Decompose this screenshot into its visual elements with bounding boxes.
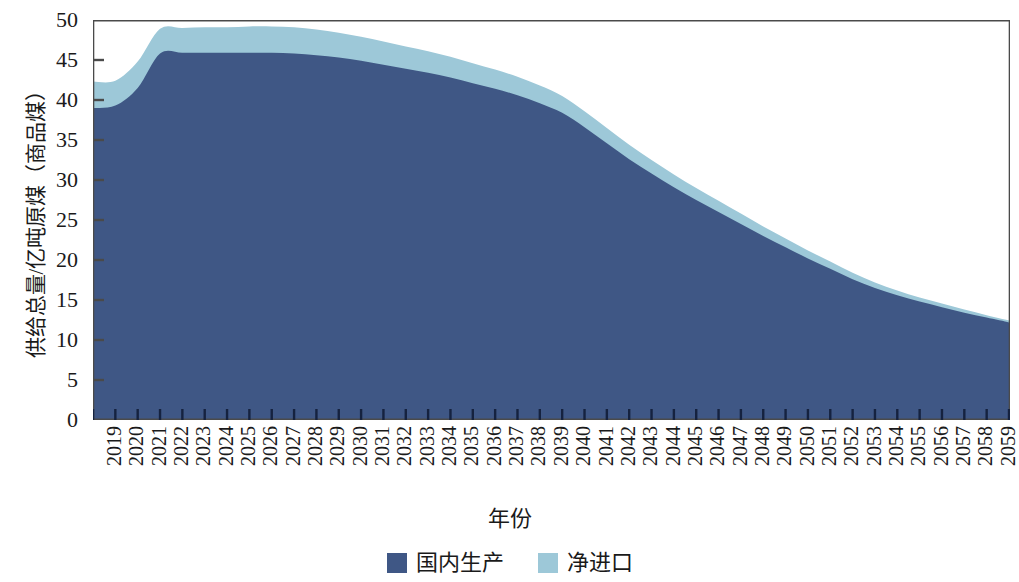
- x-tick-label-2044: 2044: [662, 424, 684, 504]
- x-tick-label-2039: 2039: [550, 424, 572, 504]
- x-tick-label-2046: 2046: [706, 424, 728, 504]
- y-tick-label-25: 25: [8, 209, 78, 231]
- x-tick-label-2031: 2031: [371, 424, 393, 504]
- legend-label: 国内生产: [416, 552, 504, 574]
- x-tick-label-2045: 2045: [684, 424, 706, 504]
- x-tick-label-2037: 2037: [505, 424, 527, 504]
- x-tick-label-2054: 2054: [885, 424, 907, 504]
- chart-legend: 国内生产净进口: [0, 552, 1019, 574]
- y-tick-label-45: 45: [8, 49, 78, 71]
- x-tick-label-2030: 2030: [349, 424, 371, 504]
- x-tick-label-2059: 2059: [997, 424, 1019, 504]
- y-tick-label-50: 50: [8, 9, 78, 31]
- legend-label: 净进口: [567, 552, 633, 574]
- y-tick-label-15: 15: [8, 289, 78, 311]
- x-tick-label-2047: 2047: [729, 424, 751, 504]
- y-tick-label-35: 35: [8, 129, 78, 151]
- x-tick-label-2057: 2057: [952, 424, 974, 504]
- stacked-area-plot: [93, 20, 1010, 420]
- x-tick-label-2049: 2049: [773, 424, 795, 504]
- x-tick-label-2055: 2055: [907, 424, 929, 504]
- x-tick-label-2023: 2023: [192, 424, 214, 504]
- plot-area: [93, 20, 1010, 420]
- x-tick-label-2052: 2052: [840, 424, 862, 504]
- x-tick-label-2020: 2020: [125, 424, 147, 504]
- x-tick-label-2038: 2038: [527, 424, 549, 504]
- legend-swatch-icon: [387, 553, 407, 573]
- x-tick-label-2050: 2050: [796, 424, 818, 504]
- x-tick-label-2029: 2029: [326, 424, 348, 504]
- x-tick-label-2028: 2028: [304, 424, 326, 504]
- chart-figure: 供给总量/亿吨原煤（商品煤） 50454035302520151050 2019…: [0, 0, 1019, 582]
- y-tick-label-40: 40: [8, 89, 78, 111]
- x-tick-label-2021: 2021: [148, 424, 170, 504]
- x-tick-label-2051: 2051: [818, 424, 840, 504]
- x-tick-label-2040: 2040: [572, 424, 594, 504]
- x-tick-label-2042: 2042: [617, 424, 639, 504]
- y-tick-label-5: 5: [8, 369, 78, 391]
- y-axis-tick-labels: 50454035302520151050: [0, 0, 88, 440]
- x-tick-label-2022: 2022: [170, 424, 192, 504]
- y-tick-label-10: 10: [8, 329, 78, 351]
- x-tick-label-2036: 2036: [483, 424, 505, 504]
- x-tick-label-2043: 2043: [639, 424, 661, 504]
- x-tick-label-2056: 2056: [930, 424, 952, 504]
- x-tick-label-2019: 2019: [103, 424, 125, 504]
- x-axis-title: 年份: [0, 500, 1019, 532]
- x-tick-label-2024: 2024: [215, 424, 237, 504]
- x-tick-label-2034: 2034: [438, 424, 460, 504]
- x-tick-label-2027: 2027: [282, 424, 304, 504]
- x-tick-label-2058: 2058: [974, 424, 996, 504]
- legend-swatch-icon: [538, 553, 558, 573]
- x-tick-label-2035: 2035: [460, 424, 482, 504]
- y-tick-label-20: 20: [8, 249, 78, 271]
- legend-item-domestic-production[interactable]: 国内生产: [387, 552, 504, 574]
- x-axis-tick-labels: 2019202020212022202320242025202620272028…: [0, 424, 1019, 504]
- x-tick-label-2048: 2048: [751, 424, 773, 504]
- x-tick-label-2026: 2026: [259, 424, 281, 504]
- y-tick-label-30: 30: [8, 169, 78, 191]
- x-tick-label-2053: 2053: [863, 424, 885, 504]
- x-tick-label-2041: 2041: [595, 424, 617, 504]
- x-tick-label-2033: 2033: [416, 424, 438, 504]
- legend-item-net-imports[interactable]: 净进口: [538, 552, 633, 574]
- x-tick-label-2032: 2032: [393, 424, 415, 504]
- x-tick-label-2025: 2025: [237, 424, 259, 504]
